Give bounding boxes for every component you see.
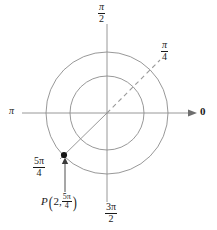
ray-label-pi-over-4: π 4 bbox=[161, 40, 168, 62]
ray-label-pi-over-4-numerator: π bbox=[161, 40, 168, 52]
axis-label-3pi-over-2: 3π 2 bbox=[105, 202, 117, 224]
point-p-marker bbox=[61, 152, 67, 158]
axis-label-pi-over-2-numerator: π bbox=[98, 2, 105, 14]
point-p-label: P(2, 5π 4 ) bbox=[41, 193, 77, 211]
ray-label-5pi-over-4-denominator: 4 bbox=[33, 168, 45, 179]
axis-label-3pi-over-2-numerator: 3π bbox=[105, 202, 117, 214]
ray-label-5pi-over-4: 5π 4 bbox=[33, 156, 45, 178]
ray-label-pi-over-4-denominator: 4 bbox=[161, 52, 168, 63]
ray-label-5pi-over-4-numerator: 5π bbox=[33, 156, 45, 168]
point-p-label-prefix: P bbox=[41, 195, 48, 207]
pi-over-4-ray bbox=[107, 60, 160, 113]
polar-axis-arrowhead-icon bbox=[188, 109, 197, 116]
polar-diagram-figure: π 2 π 4 π 0 3π 2 5π 4 P(2, 5π 4 ) bbox=[0, 0, 217, 230]
axis-label-zero: 0 bbox=[200, 106, 206, 117]
point-callout-arrowhead-icon bbox=[62, 158, 68, 165]
point-p-label-angle: 5π 4 bbox=[62, 193, 72, 210]
point-p-label-angle-denominator: 4 bbox=[62, 202, 72, 210]
axis-label-pi-over-2-denominator: 2 bbox=[98, 14, 105, 25]
axis-label-pi-over-2: π 2 bbox=[98, 2, 105, 24]
point-p-label-open-paren: ( bbox=[49, 194, 53, 211]
five-pi-over-4-ray bbox=[60, 113, 107, 159]
point-p-label-close-paren: ) bbox=[72, 194, 76, 211]
axis-label-3pi-over-2-denominator: 2 bbox=[105, 214, 117, 225]
polar-diagram-canvas bbox=[0, 0, 217, 230]
axis-label-pi: π bbox=[9, 106, 14, 116]
